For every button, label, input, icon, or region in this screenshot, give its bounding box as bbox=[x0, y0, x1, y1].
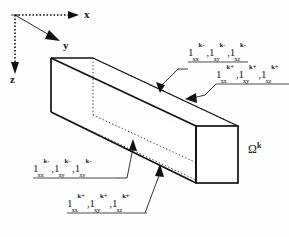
term-2: 1xyk- bbox=[54, 162, 72, 176]
term-3-sup: k- bbox=[85, 157, 91, 164]
beam-right-end-face bbox=[196, 126, 238, 183]
domain-label-superscript: k bbox=[257, 141, 261, 150]
term-1-sup: k+ bbox=[78, 192, 85, 199]
term-2: 1xyk+ bbox=[238, 68, 258, 82]
term-1-sup: k- bbox=[199, 41, 205, 48]
term-1-sup: k+ bbox=[227, 63, 234, 70]
stress-label-bottom-center-plus: 1xxk+,1xyk+,1xzk+ bbox=[67, 197, 131, 211]
term-2-sup: k+ bbox=[100, 192, 107, 199]
term-1: 1xxk- bbox=[188, 46, 206, 60]
term-2-sub: xy bbox=[58, 171, 64, 178]
term-2-sup: k- bbox=[65, 157, 71, 164]
y-axis-arrowhead bbox=[45, 30, 60, 41]
term-2-sup: k- bbox=[220, 41, 226, 48]
term-1-sub: xx bbox=[193, 55, 199, 62]
beam-element-figure bbox=[0, 0, 289, 237]
axis-label-x: x bbox=[84, 9, 90, 20]
stress-label-top-right-plus: 1xxk+,1xyk+,1xzk+ bbox=[216, 68, 280, 82]
term-2-sub: xy bbox=[243, 77, 249, 84]
term-2-sub: xy bbox=[94, 206, 100, 213]
leader-top-right-plus bbox=[193, 84, 216, 98]
term-3-sub: xy bbox=[79, 171, 85, 178]
leader-bottom-left-minus bbox=[115, 148, 133, 178]
term-2: 1xyk+ bbox=[89, 197, 109, 211]
domain-label: Ωk bbox=[248, 142, 261, 155]
term-1: 1xxk- bbox=[33, 162, 51, 176]
leader-top-left-minus bbox=[160, 69, 188, 87]
term-1: 1xxk+ bbox=[67, 197, 87, 211]
leader-bottom-center-plus bbox=[145, 173, 160, 213]
term-3: 1xzk- bbox=[230, 46, 248, 60]
domain-label-base: Ω bbox=[248, 142, 257, 156]
term-1-sub: xx bbox=[38, 171, 44, 178]
term-1-sub: xx bbox=[72, 206, 78, 213]
term-3: 1xyk- bbox=[75, 162, 93, 176]
term-1: 1xxk+ bbox=[216, 68, 236, 82]
term-3-sup: k- bbox=[240, 41, 246, 48]
axis-label-z: z bbox=[10, 74, 15, 85]
term-3-sub: xz bbox=[234, 55, 240, 62]
term-3-sub: xz bbox=[116, 206, 122, 213]
stress-label-bottom-left-minus: 1xxk-,1xyk-,1xyk- bbox=[33, 162, 93, 176]
stress-label-top-left-minus: 1xxk-,1xyk-,1xzk- bbox=[188, 46, 248, 60]
term-3-sub: xz bbox=[265, 77, 271, 84]
term-3: 1xzk+ bbox=[112, 197, 132, 211]
term-1-sup: k- bbox=[44, 157, 50, 164]
term-2-sub: xy bbox=[213, 55, 219, 62]
term-3-sup: k+ bbox=[122, 192, 129, 199]
y-axis-line bbox=[15, 15, 51, 36]
term-3: 1xzk+ bbox=[261, 68, 281, 82]
term-2-sup: k+ bbox=[249, 63, 256, 70]
axis-label-y: y bbox=[63, 40, 69, 51]
term-2: 1xyk- bbox=[209, 46, 227, 60]
term-1-sub: xx bbox=[221, 77, 227, 84]
term-3-sup: k+ bbox=[271, 63, 278, 70]
x-axis-arrowhead bbox=[68, 11, 79, 19]
